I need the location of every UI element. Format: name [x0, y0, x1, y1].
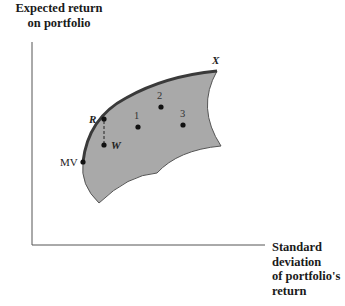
label-1: 1 [134, 110, 139, 121]
x-axis-label-line-1: Standard [272, 240, 345, 255]
label-w: W [111, 139, 122, 151]
label-3: 3 [180, 108, 185, 119]
point-1 [135, 124, 140, 129]
label-r: R [88, 113, 96, 125]
point-mv [80, 159, 85, 164]
point-r [101, 116, 106, 121]
point-3 [180, 122, 185, 127]
x-axis-label-line-4: return [272, 284, 345, 299]
x-axis-label-line-3: of portfolio's [272, 269, 345, 284]
x-axis-label-line-2: deviation [272, 255, 345, 270]
label-x: X [211, 54, 220, 66]
point-w [101, 142, 106, 147]
label-2: 2 [157, 90, 162, 101]
x-axis-label: Standard deviation of portfolio's return [272, 240, 345, 298]
label-mv: MV [60, 156, 78, 168]
point-2 [158, 104, 163, 109]
feasible-region [83, 71, 221, 203]
